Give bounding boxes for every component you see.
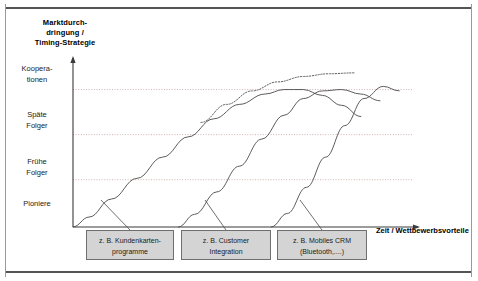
example-box-1-line1: z. B. Customer [182, 235, 270, 246]
gridlines-group [73, 90, 412, 180]
x-axis-caption: Zeit / Wettbewerbsvorteile [376, 226, 469, 235]
curve-spaete-folger-s-kurve [271, 86, 399, 227]
y-axis-arrowhead [70, 56, 75, 63]
leader-lines-group [101, 200, 322, 230]
example-box-2-line2: (Bluetooth,....) [278, 246, 366, 257]
leader-line-0 [101, 200, 130, 230]
example-box-0-line2: programme [87, 246, 173, 257]
example-box-mobiles-crm: z. B. Mobiles CRM (Bluetooth,....) [277, 230, 367, 260]
example-box-1-line2: Integration [182, 246, 270, 257]
leader-line-1 [205, 200, 226, 230]
example-box-kundenkartenprogramme: z. B. Kundenkarten- programme [86, 230, 174, 260]
example-box-0-line1: z. B. Kundenkarten- [87, 235, 173, 246]
example-box-customer-integration: z. B. Customer Integration [181, 230, 271, 260]
chart-figure: Marktdurch- dringung / Timing-Strategie … [0, 0, 478, 281]
curves-group [73, 73, 399, 227]
curve-huellkurve [201, 73, 355, 123]
example-box-2-line1: z. B. Mobiles CRM [278, 235, 366, 246]
leader-line-2 [300, 200, 322, 230]
axes-group [70, 56, 420, 230]
